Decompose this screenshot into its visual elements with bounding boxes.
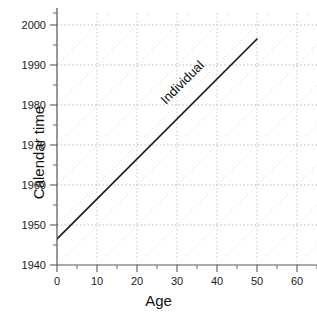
- x-tick-label-60: 60: [291, 276, 303, 287]
- x-tick-label-20: 20: [131, 276, 143, 287]
- x-tick-label-0: 0: [54, 276, 60, 287]
- x-tick-label-50: 50: [251, 276, 263, 287]
- plot-canvas: [0, 0, 317, 320]
- lexis-diagram-figure: 1940 1950 1960 1970 1980 1990 2000 0 10 …: [0, 0, 317, 320]
- x-tick-label-40: 40: [211, 276, 223, 287]
- y-axis-title: Calendar time: [30, 68, 47, 238]
- y-tick-label-2000: 2000: [14, 20, 46, 31]
- x-tick-label-10: 10: [91, 276, 103, 287]
- y-tick-label-1940: 1940: [14, 260, 46, 271]
- x-tick-label-30: 30: [171, 276, 183, 287]
- x-axis-title: Age: [0, 292, 317, 309]
- figure-background: [0, 0, 317, 320]
